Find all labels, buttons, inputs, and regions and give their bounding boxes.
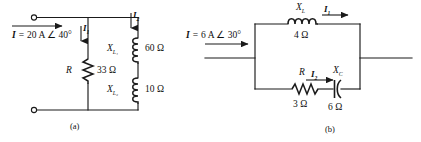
inductor-xl2-symbol-a: [133, 78, 138, 104]
inductor-xl-sub-b: L: [302, 8, 305, 14]
capacitor-value-b: 6 Ω: [328, 103, 342, 113]
current-i1-label-a: I1: [83, 24, 89, 35]
inductor-xl1-sub-a: L₁: [113, 49, 118, 55]
resistor-value-a: 33 Ω: [97, 66, 116, 76]
inductor-xl2-value-a: 10 Ω: [145, 85, 164, 95]
source-value-b: 6 A ∠ 30°: [201, 30, 241, 40]
current-i1-sub-a: 1: [87, 29, 90, 35]
terminal-top-a: [31, 15, 36, 20]
source-label-a: I=20 A ∠ 40°: [12, 31, 72, 41]
resistor-symbol-b: [292, 84, 318, 94]
circuit-drawing: [0, 0, 421, 142]
current-i1-sub-b: 1: [328, 10, 331, 16]
source-symbol-a: I: [12, 30, 16, 40]
source-equals-a: =: [19, 30, 24, 40]
resistor-label-b: R: [299, 68, 305, 78]
current-i2-sub-a: 2: [137, 16, 140, 22]
circuit-figure: I=20 A ∠ 40° I1 I2 R 33 Ω XL₁ 60 Ω XL₂ 1…: [0, 0, 421, 142]
current-i2-sub-b: 2: [315, 75, 318, 81]
current-i1-label-b: I1: [324, 5, 330, 16]
inductor-xl1-label-a: XL₁: [107, 44, 118, 56]
terminal-bottom-a: [31, 107, 36, 112]
inductor-xl2-label-a: XL₂: [107, 85, 118, 97]
resistor-label-a: R: [66, 66, 72, 76]
source-equals-b: =: [193, 30, 198, 40]
current-i2-label-a: I2: [133, 11, 139, 22]
inductor-xl-label-b: XL: [296, 3, 305, 15]
source-value-a: 20 A ∠ 40°: [27, 30, 72, 40]
panel-b-caption: (b): [325, 125, 335, 134]
source-symbol-b: I: [186, 30, 190, 40]
capacitor-symbol-b: [335, 80, 342, 98]
inductor-xl2-sub-a: L₂: [113, 90, 118, 96]
capacitor-label-b: XC: [333, 66, 343, 78]
capacitor-sub-b: C: [339, 71, 343, 77]
resistor-value-b: 3 Ω: [293, 100, 307, 110]
inductor-xl-value-b: 4 Ω: [294, 31, 308, 41]
inductor-xl1-symbol-a: [133, 38, 138, 64]
resistor-symbol-a: [83, 59, 93, 84]
source-label-b: I=6 A ∠ 30°: [186, 31, 241, 41]
current-i2-label-b: I2: [311, 70, 317, 81]
panel-a-caption: (a): [70, 122, 79, 131]
inductor-xl1-value-a: 60 Ω: [145, 44, 164, 54]
inductor-xl-symbol-b: [288, 19, 318, 24]
